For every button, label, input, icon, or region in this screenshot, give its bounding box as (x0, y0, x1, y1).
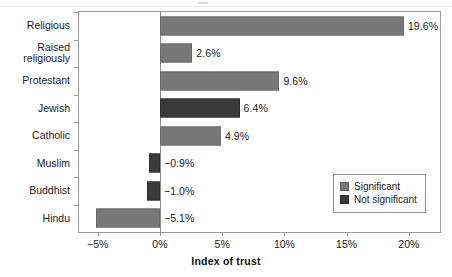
bar-row: 19.6% (79, 12, 440, 40)
y-axis-label: Hindu (0, 213, 70, 225)
legend-swatch-significant-icon (340, 182, 349, 191)
x-axis-tick-label: 10% (274, 238, 295, 250)
bar-catholic (160, 126, 221, 145)
bar-chart: ReligiousRaised religiouslyProtestantJew… (0, 0, 452, 277)
x-axis-tick-label: 15% (336, 238, 357, 250)
bar-hindu (96, 209, 159, 228)
bar-row: 9.6% (79, 67, 440, 95)
legend-swatch-not-significant-icon (340, 195, 349, 204)
bar-raised-religiously (160, 44, 192, 63)
y-axis-label: Religious (0, 20, 70, 32)
bar-value-label: 6.4% (244, 102, 268, 114)
legend: Significant Not significant (333, 174, 426, 213)
cropped-caption-rule (0, 6, 452, 7)
bar-value-label: 9.6% (283, 75, 307, 87)
x-axis-tick-label: 5% (215, 238, 230, 250)
cropped-caption-mark (198, 2, 208, 4)
x-axis-tick-label: −5% (87, 238, 108, 250)
bar-muslim (149, 154, 160, 173)
y-axis-label: Protestant (0, 75, 70, 87)
x-axis-tick (347, 232, 348, 236)
bar-value-label: 4.9% (225, 130, 249, 142)
x-axis-tick-label: 0% (152, 238, 167, 250)
y-axis-label: Muslim (0, 158, 70, 170)
x-axis-tick (409, 232, 410, 236)
bar-row: 6.4% (79, 95, 440, 123)
bar-value-label: 2.6% (196, 47, 220, 59)
legend-item-significant: Significant (340, 181, 419, 192)
x-axis-tick (98, 232, 99, 236)
legend-item-not-significant: Not significant (340, 194, 419, 205)
y-axis-label: Buddhist (0, 185, 70, 197)
x-axis-tick (284, 232, 285, 236)
bar-buddhist (147, 181, 159, 200)
y-axis-label: Raised religiously (0, 42, 70, 65)
bar-value-label: −0.9% (164, 157, 195, 169)
bar-value-label: −5.1% (164, 212, 195, 224)
plot-area: 19.6%2.6%9.6%6.4%4.9%−0.9%−1.0%−5.1% Sig… (78, 11, 441, 233)
x-axis-tick-label: 20% (398, 238, 419, 250)
legend-label-significant: Significant (354, 181, 400, 192)
bar-religious (160, 16, 404, 35)
bar-row: 4.9% (79, 122, 440, 150)
bar-value-label: 19.6% (408, 20, 438, 32)
y-axis-label: Jewish (0, 103, 70, 115)
legend-label-not-significant: Not significant (354, 194, 417, 205)
bar-protestant (160, 71, 280, 90)
x-axis-title: Index of trust (0, 255, 452, 267)
x-axis-tick (222, 232, 223, 236)
bar-value-label: −1.0% (164, 185, 195, 197)
bar-jewish (160, 99, 240, 118)
y-axis-label: Catholic (0, 130, 70, 142)
x-axis-tick (160, 232, 161, 236)
bar-row: −0.9% (79, 150, 440, 178)
bar-row: 2.6% (79, 40, 440, 68)
